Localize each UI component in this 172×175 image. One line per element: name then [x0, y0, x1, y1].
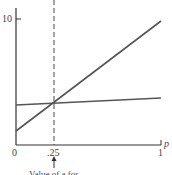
x-tick-label-0: 0 [12, 148, 17, 158]
annotation-text: Value of a for [29, 169, 78, 175]
series-steep-line [16, 21, 161, 131]
y-tick-label-10: 10 [2, 14, 12, 24]
x-axis-label: p [164, 139, 169, 149]
x-tick-label-1: 1 [158, 148, 163, 158]
series-flat-line [16, 98, 161, 105]
x-tick-label-025: .25 [47, 148, 60, 158]
chart-canvas [0, 0, 172, 175]
